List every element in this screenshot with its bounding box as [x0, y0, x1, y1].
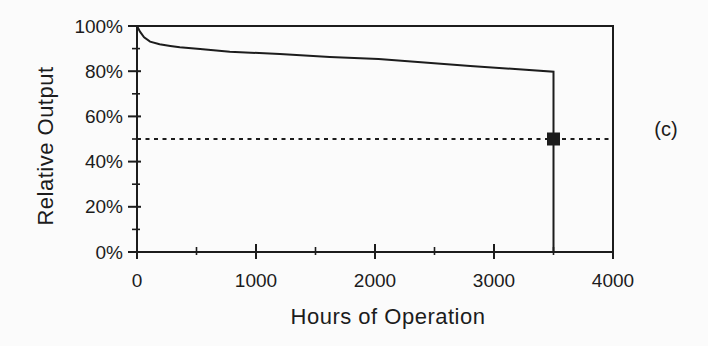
- x-axis-tick-label: 0: [132, 270, 143, 291]
- y-axis-tick-label: 20%: [85, 196, 123, 217]
- y-axis-title: Relative Output: [33, 66, 59, 225]
- x-axis-tick-label: 1000: [235, 270, 277, 291]
- failure-point-marker: [547, 133, 560, 146]
- y-axis-tick-label: 100%: [74, 16, 123, 37]
- x-axis-tick-label: 4000: [592, 270, 634, 291]
- y-axis-tick-label: 40%: [85, 151, 123, 172]
- panel-label-c: (c): [654, 118, 677, 141]
- x-axis-tick-label: 2000: [354, 270, 396, 291]
- lumen-maintenance-chart: 0%20%40%60%80%100%01000200030004000: [0, 0, 708, 346]
- figure-panel-c: 0%20%40%60%80%100%01000200030004000 Rela…: [0, 0, 708, 346]
- x-axis-title: Hours of Operation: [291, 304, 486, 330]
- y-axis-tick-label: 60%: [85, 106, 123, 127]
- x-axis-tick-label: 3000: [473, 270, 515, 291]
- y-axis-tick-label: 0%: [96, 242, 124, 263]
- y-axis-tick-label: 80%: [85, 61, 123, 82]
